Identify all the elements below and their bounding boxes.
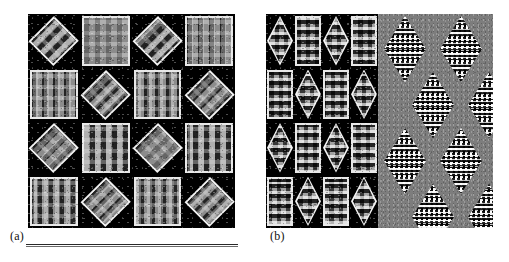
panel-a-cell [183,175,235,229]
checker-pattern [30,70,78,120]
horizontal-rule-shadow [26,246,238,247]
checker-pattern [325,18,347,64]
panel-b-cell [350,68,378,122]
checker-pattern [82,16,130,66]
dotted-lozenge-dots [468,184,493,228]
checker-pattern [132,16,183,67]
panel-a-cell [132,14,184,68]
panel-b-cell [266,121,294,175]
panel-b-cell [322,14,350,68]
figure-root: (a) (b) [0,0,509,262]
checker-pattern [29,123,80,174]
checker-pattern [269,125,291,171]
checker-pattern [267,177,293,227]
diamond-checker-tile [29,123,80,174]
checker-pattern [353,179,375,225]
panel-a-cell [132,68,184,122]
panel-b-cell [266,14,294,68]
panel-a-cell [132,121,184,175]
panel-a-label: (a) [10,229,24,244]
panel-a-tile-grid [28,14,235,228]
diamond-checker-tile [29,16,80,67]
rect-checker-tile [295,123,321,173]
checker-pattern [297,179,319,225]
rect-checker-tile [323,177,349,227]
diamond-checker-tile [184,70,235,121]
dotted-lozenge [412,184,454,228]
panel-a-cell [28,121,80,175]
panel-a-cell [183,121,235,175]
checker-pattern [29,16,80,67]
lozenge-fill [353,179,375,225]
panel-b-cell [294,68,322,122]
diamond-checker-tile [80,177,131,228]
checker-pattern [323,70,349,120]
panel-b-cell [294,14,322,68]
checker-pattern [184,70,235,121]
panel-b-cell [322,68,350,122]
lozenge-checker-tile [295,70,321,120]
lozenge-fill [297,72,319,118]
checker-pattern [184,177,235,228]
dotted-lozenge-dots [412,184,454,228]
panel-b-cell [294,121,322,175]
lozenge-checker-tile [267,16,293,66]
checker-pattern [132,123,183,174]
panel-a-cell [183,68,235,122]
panel-b-tile-grid [266,14,378,228]
panel-b [266,14,493,228]
checker-pattern [80,70,131,121]
panel-b-label: (b) [270,229,285,244]
panel-a-cell [28,14,80,68]
checker-pattern [351,16,377,66]
dotted-lozenge [468,184,493,228]
square-checker-tile [134,70,182,120]
panel-a [28,14,235,228]
checker-pattern [134,70,182,120]
lozenge-fill [297,179,319,225]
rect-checker-tile [323,70,349,120]
checker-pattern [323,177,349,227]
lozenge-checker-tile [295,177,321,227]
panel-b-cell [350,121,378,175]
checker-pattern [267,70,293,120]
panel-a-cell [28,175,80,229]
panel-a-cell [132,175,184,229]
square-checker-tile [185,16,233,66]
rect-checker-tile [295,16,321,66]
rect-checker-tile [351,16,377,66]
checker-pattern [325,125,347,171]
panel-b-cell [294,175,322,229]
lozenge-checker-tile [323,16,349,66]
checker-pattern [185,16,233,66]
checker-pattern [185,123,233,173]
panel-b-tile-section [266,14,378,228]
lozenge-checker-tile [267,123,293,173]
panel-a-cell [28,68,80,122]
diamond-checker-tile [132,16,183,67]
panel-b-cell [350,175,378,229]
checker-pattern [30,177,78,227]
panel-a-cell [80,68,132,122]
square-checker-tile [185,123,233,173]
checker-pattern [297,72,319,118]
checker-pattern [82,123,130,173]
horizontal-rule [26,244,238,245]
checker-pattern [353,72,375,118]
square-checker-tile [82,16,130,66]
lozenge-checker-tile [351,70,377,120]
lozenge-fill [325,18,347,64]
panel-a-cell [80,14,132,68]
lozenge-checker-tile [351,177,377,227]
rect-checker-tile [267,70,293,120]
square-checker-tile [30,70,78,120]
rect-checker-tile [267,177,293,227]
panel-b-cell [322,121,350,175]
checker-pattern [295,123,321,173]
square-checker-tile [82,123,130,173]
diamond-checker-tile [80,70,131,121]
panel-b-cell [350,14,378,68]
checker-pattern [134,177,182,227]
lozenge-fill [325,125,347,171]
lozenge-checker-tile [323,123,349,173]
